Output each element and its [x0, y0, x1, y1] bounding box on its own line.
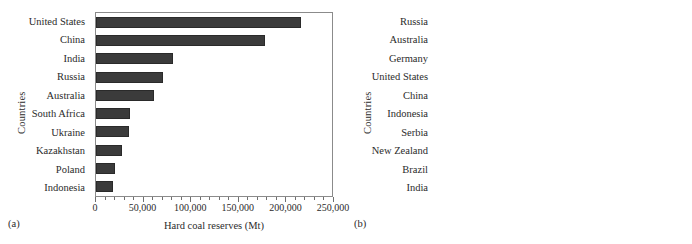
category-label: Russia [57, 71, 90, 82]
category-label: South Africa [32, 108, 90, 119]
bar[interactable] [96, 145, 122, 156]
bar[interactable] [96, 53, 173, 64]
category-label: Germany [389, 53, 433, 64]
x-tick-label: 50,000 [129, 202, 157, 213]
category-label: Brazil [402, 164, 433, 175]
bar[interactable] [96, 17, 301, 28]
bar-row [96, 17, 332, 28]
x-tick-minor [105, 197, 106, 200]
x-tick-minor [314, 197, 315, 200]
category-label: India [63, 53, 90, 64]
x-tick-minor [200, 197, 201, 200]
category-label: Ukraine [51, 127, 90, 138]
bar[interactable] [96, 181, 113, 192]
bar-row [96, 108, 332, 119]
x-tick-minor [219, 197, 220, 200]
x-tick-minor [181, 197, 182, 200]
plot-area-a [95, 12, 333, 197]
x-tick-label: 200,000 [269, 202, 302, 213]
bar-row [96, 163, 332, 174]
x-tick-label: 150,000 [222, 202, 255, 213]
x-tick-minor [162, 197, 163, 200]
panel-tag-a: (a) [8, 218, 20, 229]
bar-row [96, 181, 332, 192]
x-tick-minor [247, 197, 248, 200]
x-tick-minor [171, 197, 172, 200]
category-label: United States [372, 71, 433, 82]
category-label: Russia [400, 16, 433, 27]
category-label: Indonesia [44, 182, 90, 193]
bar-row [96, 35, 332, 46]
category-labels-a: United StatesChinaIndiaRussiaAustraliaSo… [0, 12, 90, 197]
category-label: China [403, 90, 433, 101]
x-tick-label: 0 [93, 202, 98, 213]
x-tick-minor [257, 197, 258, 200]
bar-row [96, 145, 332, 156]
x-tick-minor [209, 197, 210, 200]
bar-row [96, 126, 332, 137]
x-tick-minor [124, 197, 125, 200]
bar[interactable] [96, 35, 265, 46]
category-label: Australia [390, 34, 434, 45]
bar-row [96, 90, 332, 101]
category-label: China [60, 34, 90, 45]
category-label: Australia [47, 90, 91, 101]
bar-series-a [96, 13, 332, 196]
panel-tag-b: (b) [354, 218, 366, 229]
x-tick-minor [304, 197, 305, 200]
x-tick-minor [276, 197, 277, 200]
x-tick-minor [152, 197, 153, 200]
category-label: Poland [56, 164, 90, 175]
x-axis-label-a: Hard coal reserves (Mt) [95, 220, 333, 231]
figure-coal-reserves: Countries United StatesChinaIndiaRussiaA… [0, 0, 692, 244]
x-tick-minor [295, 197, 296, 200]
category-label: New Zealand [372, 145, 433, 156]
category-label: Kazakhstan [36, 145, 90, 156]
category-label: Serbia [401, 127, 433, 138]
bar[interactable] [96, 90, 154, 101]
category-label: India [406, 182, 433, 193]
bar-row [96, 72, 332, 83]
x-tick-minor [228, 197, 229, 200]
x-tick-minor [114, 197, 115, 200]
panel-a-hard-coal: Countries United StatesChinaIndiaRussiaA… [0, 0, 346, 244]
bar[interactable] [96, 126, 129, 137]
x-axis-tick-labels-a: 050,000100,000150,000200,000250,000 [95, 202, 333, 216]
category-labels-b: RussiaAustraliaGermanyUnited StatesChina… [346, 12, 433, 197]
x-tick-label: 100,000 [174, 202, 207, 213]
bar[interactable] [96, 72, 163, 83]
x-tick-label: 250,000 [317, 202, 350, 213]
x-tick-minor [266, 197, 267, 200]
bar-row [96, 53, 332, 64]
bar[interactable] [96, 163, 115, 174]
x-tick-minor [323, 197, 324, 200]
x-tick-minor [133, 197, 134, 200]
panel-b-lignite-coal: Countries RussiaAustraliaGermanyUnited S… [346, 0, 692, 244]
bar[interactable] [96, 108, 130, 119]
category-label: Indonesia [387, 108, 433, 119]
category-label: United States [29, 16, 90, 27]
